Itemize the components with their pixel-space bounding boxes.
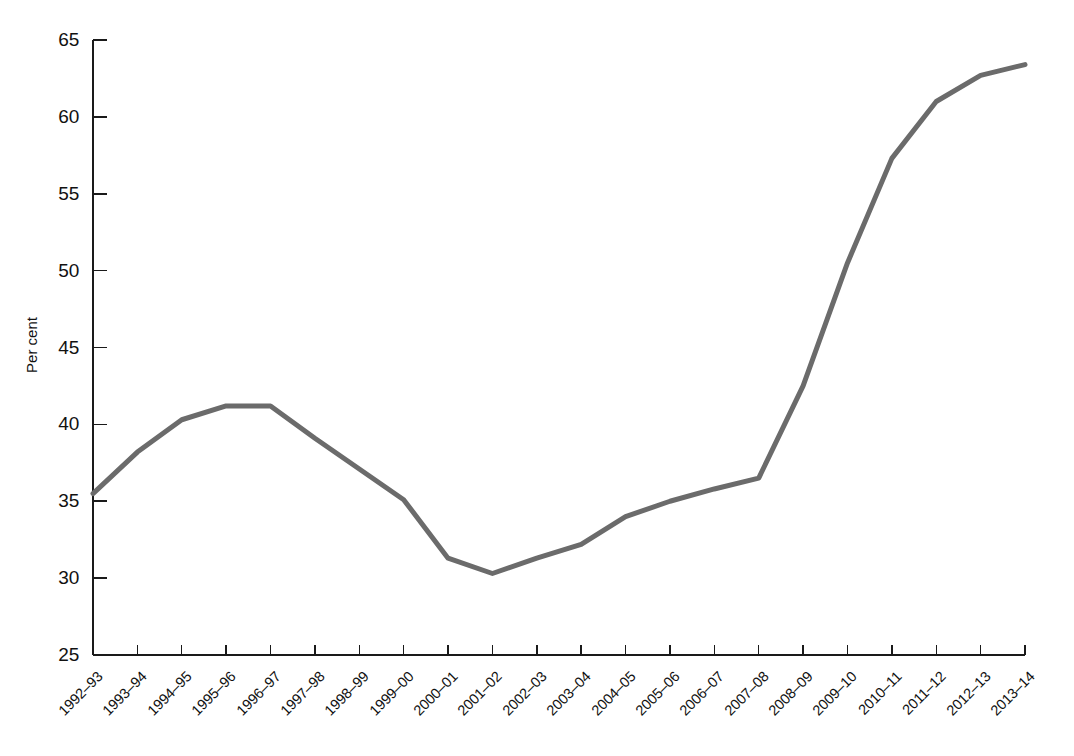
y-axis-tick-label: 50 [27,261,79,280]
y-axis-tick-label: 45 [27,338,79,357]
y-axis-tick-label: 55 [27,184,79,203]
y-axis-tick-label: 65 [27,30,79,49]
chart-plot-area [0,0,1074,756]
chart-series-line [93,65,1025,574]
y-axis-tick-label: 40 [27,414,79,433]
y-axis-tick-label: 25 [27,645,79,664]
chart-axes [93,40,1025,655]
chart-tick-marks [93,40,1025,655]
y-axis-tick-label: 30 [27,568,79,587]
line-chart: Per cent 253035404550556065 1992–931993–… [0,0,1074,756]
y-axis-tick-label: 60 [27,107,79,126]
y-axis-tick-label: 35 [27,491,79,510]
series-line-per-cent [93,65,1025,574]
